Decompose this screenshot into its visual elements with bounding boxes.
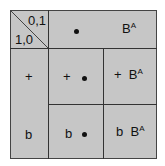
header-dot-icon: [74, 29, 79, 34]
cell-b-dot-text: b: [65, 127, 72, 140]
header-ba-label: BA: [122, 22, 136, 35]
corner-bottom-label: 1,0: [15, 33, 33, 46]
cell-b-ba: b BA: [116, 125, 144, 138]
row-label-b: b: [25, 128, 32, 141]
cell-plus-dot-icon: [82, 76, 87, 81]
col-divider-1: [48, 10, 49, 159]
row-label-plus: +: [25, 70, 33, 83]
row-divider-1: [10, 48, 157, 49]
cell-plus-ba: + BA: [114, 68, 143, 81]
cell-plus-dot-text: +: [63, 70, 71, 83]
corner-top-label: 0,1: [28, 14, 46, 27]
row-divider-2: [48, 104, 157, 105]
cell-b-dot-icon: [82, 132, 87, 137]
